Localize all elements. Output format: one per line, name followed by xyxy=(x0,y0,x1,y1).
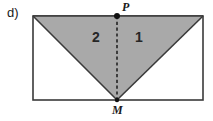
point-marker-m xyxy=(115,98,119,102)
vertex-label-m: M xyxy=(112,104,123,117)
region-label-2: 2 xyxy=(92,30,100,45)
figure-canvas: d) P M 2 1 xyxy=(0,0,213,121)
region-label-1: 1 xyxy=(135,30,143,45)
point-marker-p xyxy=(114,13,120,19)
part-label: d) xyxy=(7,6,19,20)
vertex-label-p: P xyxy=(122,1,129,14)
geometry-diagram xyxy=(0,0,213,121)
